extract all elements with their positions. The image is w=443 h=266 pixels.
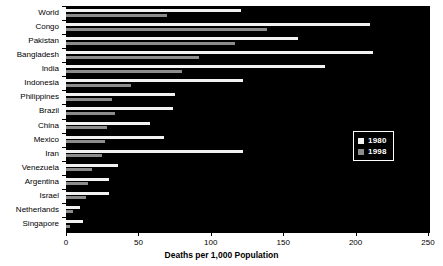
category-label: Netherlands (0, 205, 59, 214)
bar-1998-singapore (66, 225, 70, 228)
category-label: China (0, 121, 59, 130)
category-tick (62, 175, 66, 176)
category-label: Israel (0, 191, 59, 200)
x-tick (138, 232, 139, 236)
x-tick-label: 150 (268, 238, 298, 247)
category-label: Philippines (0, 92, 59, 101)
chart-legend: 1980 1998 (353, 131, 394, 161)
bar-1980-israel (66, 192, 109, 195)
category-tick (62, 34, 66, 35)
x-tick (66, 232, 67, 236)
x-axis-title: Deaths per 1,000 Population (0, 250, 443, 260)
x-tick-label: 250 (413, 238, 443, 247)
bar-1980-pakistan (66, 37, 298, 40)
bar-1980-india (66, 65, 325, 68)
legend-label-1998: 1998 (368, 147, 387, 156)
bar-1980-argentina (66, 178, 109, 181)
x-tick-label: 0 (51, 238, 81, 247)
category-tick (62, 189, 66, 190)
category-axis: WorldCongoPakistanBangladeshIndiaIndones… (0, 6, 63, 231)
category-tick (62, 217, 66, 218)
legend-item-1980: 1980 (358, 135, 387, 146)
bar-1998-netherlands (66, 210, 73, 213)
category-tick (62, 147, 66, 148)
legend-label-1980: 1980 (368, 136, 387, 145)
category-tick (62, 48, 66, 49)
category-tick (62, 203, 66, 204)
x-tick-label: 200 (341, 238, 371, 247)
legend-swatch-1980-icon (358, 138, 364, 144)
x-axis-line (66, 232, 429, 233)
bar-1998-india (66, 70, 182, 73)
category-tick (62, 133, 66, 134)
bar-1998-world (66, 14, 167, 17)
bar-1998-mexico (66, 140, 105, 143)
category-label: Argentina (0, 177, 59, 186)
x-tick (283, 232, 284, 236)
category-tick (62, 104, 66, 105)
chart-figure: WorldCongoPakistanBangladeshIndiaIndones… (0, 0, 443, 266)
category-tick (62, 62, 66, 63)
bar-1998-philippines (66, 98, 112, 101)
bar-1980-venezuela (66, 164, 118, 167)
bar-1998-indonesia (66, 84, 131, 87)
bar-1998-pakistan (66, 42, 235, 45)
category-tick (62, 90, 66, 91)
category-tick (62, 6, 66, 7)
bar-1980-mexico (66, 136, 164, 139)
bar-1980-china (66, 122, 150, 125)
category-label: Indonesia (0, 78, 59, 87)
x-tick-label: 50 (123, 238, 153, 247)
category-tick (62, 119, 66, 120)
category-tick (62, 161, 66, 162)
x-tick (428, 232, 429, 236)
x-tick (211, 232, 212, 236)
category-label: Venezuela (0, 163, 59, 172)
bar-1998-venezuela (66, 168, 92, 171)
bar-1998-china (66, 126, 107, 129)
category-label: Singapore (0, 219, 59, 228)
category-label: Bangladesh (0, 50, 59, 59)
category-label: Iran (0, 149, 59, 158)
category-label: World (0, 8, 59, 17)
bar-1980-netherlands (66, 206, 80, 209)
bar-1998-brazil (66, 112, 115, 115)
bar-1998-congo (66, 28, 267, 31)
bar-1980-congo (66, 23, 370, 26)
category-tick (62, 76, 66, 77)
x-tick-label: 100 (196, 238, 226, 247)
bar-1998-argentina (66, 182, 88, 185)
legend-swatch-1998-icon (358, 149, 364, 155)
bar-1980-bangladesh (66, 51, 373, 54)
bar-1980-iran (66, 150, 243, 153)
bar-1998-bangladesh (66, 56, 199, 59)
bar-1998-israel (66, 196, 86, 199)
category-label: Mexico (0, 135, 59, 144)
category-tick (62, 20, 66, 21)
bar-1980-world (66, 9, 241, 12)
x-tick (356, 232, 357, 236)
category-label: Congo (0, 22, 59, 31)
category-label: Brazil (0, 106, 59, 115)
bar-1980-singapore (66, 220, 83, 223)
bar-1980-brazil (66, 107, 173, 110)
legend-item-1998: 1998 (358, 146, 387, 157)
bar-1980-indonesia (66, 79, 243, 82)
bar-1998-iran (66, 154, 102, 157)
category-label: Pakistan (0, 36, 59, 45)
category-label: India (0, 64, 59, 73)
bar-1980-philippines (66, 93, 175, 96)
